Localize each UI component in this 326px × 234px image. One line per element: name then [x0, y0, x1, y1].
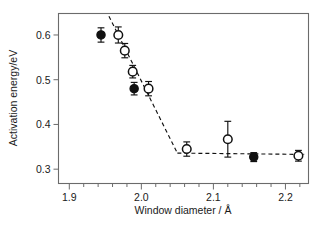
data-point-open-circle: [182, 145, 191, 154]
data-point-open-circle: [294, 151, 303, 160]
figure-container: 1.92.02.12.2 0.30.40.50.6 Window diamete…: [0, 0, 326, 234]
y-tick-label: 0.6: [36, 29, 51, 41]
y-tick-label: 0.4: [36, 118, 51, 130]
y-tick-label: 0.5: [36, 74, 51, 86]
data-point-filled-circle: [250, 153, 258, 161]
x-tick-label: 2.2: [278, 191, 293, 203]
data-point-open-circle: [144, 84, 153, 93]
x-axis-title: Window diameter / Å: [135, 204, 232, 216]
activation-energy-scatter-plot: 1.92.02.12.2 0.30.40.50.6 Window diamete…: [0, 0, 326, 234]
y-tick-label: 0.3: [36, 163, 51, 175]
x-tick-label: 1.9: [62, 191, 77, 203]
x-tick-label: 2.1: [206, 191, 221, 203]
data-point-open-circle: [114, 31, 123, 40]
data-point-filled-circle: [97, 31, 105, 39]
data-point-open-circle: [128, 67, 137, 76]
data-point-filled-circle: [130, 85, 138, 93]
x-tick-label: 2.0: [134, 191, 149, 203]
data-point-open-circle: [120, 46, 129, 55]
data-point-open-circle: [224, 135, 233, 144]
y-axis-title: Activation energy/eV: [7, 50, 19, 146]
